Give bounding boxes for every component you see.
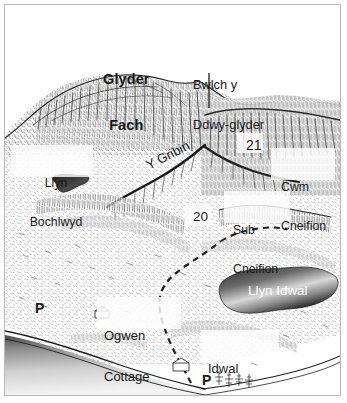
map-frame: Glyder Fach Bwlch y Ddwy-glyder Llyn Boc…: [4, 4, 341, 396]
map-illustration: Glyder Fach Bwlch y Ddwy-glyder Llyn Boc…: [0, 0, 347, 403]
map-drawing: [5, 5, 340, 395]
